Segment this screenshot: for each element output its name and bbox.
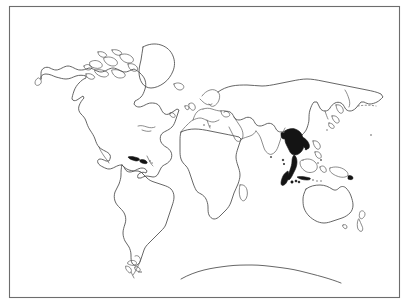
range-islet-hainan (305, 148, 307, 150)
south-atlantic-islet-icon (140, 271, 142, 273)
map-background (0, 0, 409, 305)
map-canvas (0, 0, 409, 305)
map-frame (0, 0, 409, 305)
world-distribution-map-figure: species-distribution solid-black equirec… (0, 0, 409, 305)
mid-pacific-islet-icon (370, 134, 372, 136)
